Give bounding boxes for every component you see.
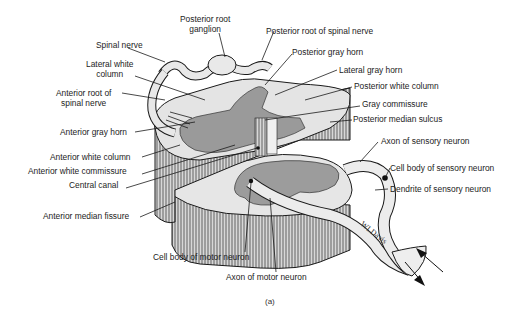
label-axon-of-motor-neuron: Axon of motor neuron: [226, 272, 307, 282]
label-lateral-gray-horn: Lateral gray horn: [339, 65, 402, 75]
label-posterior-root-of-spinal-nerve: Posterior root of spinal nerve: [266, 26, 373, 36]
label-gray-commissure: Gray commissure: [362, 99, 428, 109]
figure-caption: (a): [265, 297, 275, 306]
label-cell-body-of-sensory-neuron: Cell body of sensory neuron: [390, 163, 494, 173]
label-cell-body-of-motor-neuron: Cell body of motor neuron: [153, 252, 249, 262]
label-anterior-gray-horn: Anterior gray horn: [60, 127, 127, 137]
label-central-canal: Central canal: [69, 180, 118, 190]
label-anterior-white-column: Anterior white column: [50, 152, 131, 162]
label-dendrite-of-sensory-neuron: Dendrite of sensory neuron: [390, 184, 491, 194]
label-posterior-root-ganglion: Posterior root ganglion: [180, 14, 230, 34]
label-axon-of-sensory-neuron: Axon of sensory neuron: [381, 136, 469, 146]
spinal-cord-figure: WLDavis Posterior root gan: [0, 0, 522, 311]
label-anterior-white-commissure: Anterior white commissure: [28, 166, 127, 176]
label-posterior-white-column: Posterior white column: [354, 81, 439, 91]
label-lateral-white-column: Lateral white column: [86, 59, 134, 79]
label-spinal-nerve: Spinal nerve: [96, 40, 143, 50]
label-anterior-median-fissure: Anterior median fissure: [43, 211, 129, 221]
label-anterior-root: Anterior root of spinal nerve: [56, 88, 111, 108]
label-posterior-median-sulcus: Posterior median sulcus: [353, 114, 442, 124]
label-posterior-gray-horn: Posterior gray horn: [292, 47, 363, 57]
